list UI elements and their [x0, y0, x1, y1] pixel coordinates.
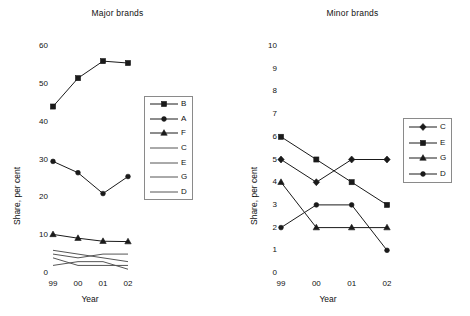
series-A: [51, 159, 131, 196]
legend-label-C: C: [440, 122, 446, 131]
series-line-A: [53, 161, 128, 193]
legend-swatch-C: [149, 141, 179, 155]
y-axis-tick-label-7: 7: [255, 109, 277, 118]
data-point-marker: [384, 202, 389, 207]
figure-two-panel-line-charts: Major brands Share, per cent Year BAFCEG…: [0, 0, 470, 316]
legend-label-B: B: [181, 99, 186, 108]
data-point-marker: [420, 123, 426, 130]
data-point-marker: [385, 248, 390, 253]
data-point-marker: [100, 59, 105, 64]
legend-label-D: D: [181, 187, 187, 196]
legend-swatch-G: [408, 151, 438, 165]
data-point-marker: [384, 224, 390, 230]
y-axis-tick-label-3: 3: [255, 200, 277, 209]
x-axis-tick-label-02: 02: [377, 279, 397, 288]
data-point-marker: [50, 104, 55, 109]
data-point-marker: [161, 130, 167, 136]
x-axis-tick-label-99: 99: [271, 279, 291, 288]
legend-swatch-G: [149, 170, 179, 184]
y-axis-tick-label-6: 6: [255, 132, 277, 141]
x-axis-tick-label-99: 99: [43, 279, 63, 288]
legend-swatch-A: [149, 112, 179, 126]
data-point-marker: [75, 76, 80, 81]
legend-label-D: D: [440, 169, 446, 178]
legend-label-C: C: [181, 143, 187, 152]
data-point-marker: [101, 191, 106, 196]
legend-label-E: E: [181, 158, 186, 167]
legend-swatch-F: [149, 126, 179, 140]
y-axis-tick-label-8: 8: [255, 86, 277, 95]
data-point-marker: [125, 60, 130, 65]
data-point-marker: [126, 174, 131, 179]
series-F: [50, 231, 131, 244]
y-axis-tick-label-5: 5: [255, 155, 277, 164]
series-G: [278, 179, 390, 230]
data-point-marker: [125, 238, 131, 244]
data-point-marker: [314, 157, 319, 162]
data-point-marker: [278, 179, 284, 185]
y-axis-tick-label-30: 30: [26, 155, 48, 164]
legend-swatch-D: [408, 167, 438, 181]
y-axis-tick-label-4: 4: [255, 177, 277, 186]
y-axis-tick-label-50: 50: [26, 79, 48, 88]
x-axis-tick-label-01: 01: [93, 279, 113, 288]
legend-swatch-E: [149, 156, 179, 170]
series-line-E: [281, 137, 387, 205]
legend-swatch-B: [149, 97, 179, 111]
x-axis-tick-label-00: 00: [306, 279, 326, 288]
data-point-marker: [50, 231, 56, 237]
y-axis-tick-label-40: 40: [26, 117, 48, 126]
y-axis-tick-label-9: 9: [255, 64, 277, 73]
legend-label-F: F: [181, 128, 186, 137]
data-point-marker: [313, 179, 319, 186]
series-E: [278, 134, 389, 207]
x-axis-tick-label-01: 01: [342, 279, 362, 288]
data-point-marker: [421, 172, 426, 177]
data-point-marker: [278, 156, 284, 163]
data-point-marker: [348, 156, 354, 163]
data-point-marker: [420, 140, 425, 145]
data-point-marker: [349, 180, 354, 185]
legend-swatch-C: [408, 120, 438, 134]
data-point-marker: [279, 225, 284, 230]
y-axis-tick-label-10: 10: [255, 41, 277, 50]
y-axis-tick-label-20: 20: [26, 192, 48, 201]
data-point-marker: [76, 170, 81, 175]
data-point-marker: [314, 203, 319, 208]
data-point-marker: [384, 156, 390, 163]
data-point-marker: [51, 159, 56, 164]
legend-major[interactable]: BAFCEGD: [144, 96, 193, 200]
data-point-marker: [161, 102, 166, 107]
legend-label-G: G: [181, 172, 187, 181]
y-axis-tick-label-60: 60: [26, 41, 48, 50]
panel-major-brands: Major brands Share, per cent Year BAFCEG…: [0, 0, 235, 316]
legend-minor[interactable]: CEGD: [403, 118, 452, 183]
y-axis-tick-label-1: 1: [255, 245, 277, 254]
series-B: [50, 59, 130, 109]
legend-swatch-E: [408, 136, 438, 150]
data-point-marker: [162, 116, 167, 121]
y-axis-tick-label-2: 2: [255, 223, 277, 232]
data-point-marker: [348, 224, 354, 230]
x-axis-tick-label-00: 00: [68, 279, 88, 288]
data-point-marker: [349, 203, 354, 208]
data-point-marker: [278, 134, 283, 139]
panel-minor-brands: Minor brands Share, per cent Year CEGD 0…: [235, 0, 470, 316]
legend-label-G: G: [440, 153, 446, 162]
y-axis-tick-label-10: 10: [26, 230, 48, 239]
legend-label-E: E: [440, 138, 445, 147]
legend-swatch-D: [149, 185, 179, 199]
x-axis-tick-label-02: 02: [118, 279, 138, 288]
series-line-F: [53, 234, 128, 241]
legend-label-A: A: [181, 114, 186, 123]
y-axis-tick-label-0: 0: [255, 268, 277, 277]
y-axis-tick-label-0: 0: [26, 268, 48, 277]
data-point-marker: [420, 155, 426, 161]
series-line-B: [53, 61, 128, 106]
